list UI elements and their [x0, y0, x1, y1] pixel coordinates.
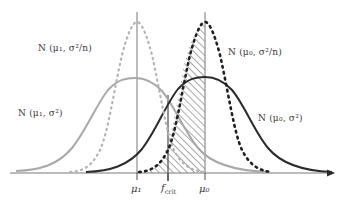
distribution-plot — [0, 0, 344, 207]
tick-label-fcrit: fcrit — [161, 182, 176, 196]
curve-alt-population — [16, 78, 268, 172]
label-null-sampling: N (μ₀, σ²/n) — [228, 47, 282, 57]
tick-label-mu1: μ₁ — [131, 183, 142, 194]
label-alt-sampling: N (μ₁, σ²/n) — [38, 43, 92, 53]
tick-label-mu0: μ₀ — [199, 183, 210, 194]
label-null-population: N (μ₀, σ²) — [258, 113, 303, 123]
fcrit-subscript: crit — [165, 188, 176, 196]
label-alt-population: N (μ₁, σ²) — [18, 108, 63, 118]
statistics-figure: N (μ₁, σ²/n) N (μ₀, σ²/n) N (μ₁, σ²) N (… — [0, 0, 344, 207]
